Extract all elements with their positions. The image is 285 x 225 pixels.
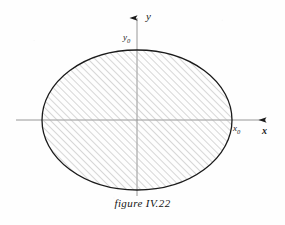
ellipse-figure-drawing (0, 0, 285, 225)
y-intercept-label: y0 (123, 33, 130, 44)
ellipse-region (42, 50, 232, 190)
x-axis-label: x (262, 126, 267, 136)
ellipse-hatch-fill (42, 50, 232, 190)
x-intercept-subscript: 0 (237, 128, 240, 135)
y-intercept-subscript: 0 (127, 37, 130, 44)
figure-caption: figure IV.22 (0, 197, 285, 209)
x-intercept-label: x0 (233, 124, 240, 135)
y-axis-label: y (146, 11, 151, 22)
figure-page: y y0 x x0 figure IV.22 (0, 0, 285, 225)
